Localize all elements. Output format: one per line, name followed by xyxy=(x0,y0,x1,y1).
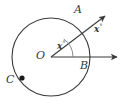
degree-symbol-inner: ° xyxy=(62,39,65,46)
point-c-dot xyxy=(19,75,24,80)
angle-label-inner: x° xyxy=(57,40,65,51)
point-label-o: O xyxy=(36,50,45,61)
point-label-a: A xyxy=(74,4,82,15)
point-label-b: B xyxy=(80,60,88,71)
degree-symbol-outer: ° xyxy=(99,22,102,29)
figure-canvas xyxy=(0,0,129,112)
point-label-c: C xyxy=(6,74,14,85)
geometry-figure: A B C O x° x° xyxy=(0,0,129,112)
angle-label-outer: x° xyxy=(94,23,102,34)
